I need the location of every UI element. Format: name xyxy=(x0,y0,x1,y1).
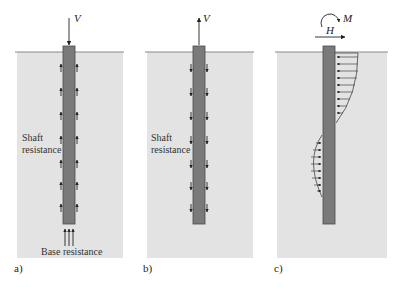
panel-label-a: a) xyxy=(14,262,23,275)
panel-a: V Shaft resistance Base resistance xyxy=(14,12,124,275)
base-resistance-label: Base resistance xyxy=(41,246,103,257)
pile xyxy=(323,46,335,224)
moment-symbol: M xyxy=(342,12,353,24)
panel-b: V Shaft resistance b) xyxy=(143,12,254,275)
load-symbol: V xyxy=(203,12,211,24)
pile xyxy=(193,46,205,224)
pile-resistance-diagram: V Shaft resistance Base resistance xyxy=(0,0,403,289)
load-symbol: V xyxy=(74,12,82,24)
panel-label-c: c) xyxy=(274,262,283,275)
shaft-resistance-label: Shaft xyxy=(22,132,43,143)
shaft-resistance-label-line2: resistance xyxy=(151,144,191,155)
shaft-resistance-label: Shaft xyxy=(151,132,172,143)
panel-c: M H xyxy=(274,12,388,275)
shaft-resistance-label-line2: resistance xyxy=(22,144,62,155)
horizontal-symbol: H xyxy=(325,24,335,36)
panel-label-b: b) xyxy=(143,262,153,275)
pile xyxy=(63,46,75,224)
